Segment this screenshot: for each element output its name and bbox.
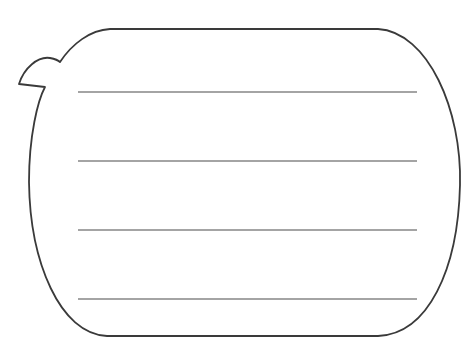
speech-bubble-outline: [19, 29, 460, 336]
speech-bubble-canvas: [0, 0, 473, 354]
